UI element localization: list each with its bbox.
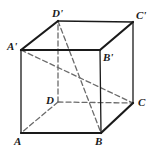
cube-figure: ABCDA'B'C'D'	[0, 0, 161, 155]
space-diagonal-Aprime-C	[21, 50, 133, 103]
vertex-label-b: B	[95, 136, 102, 147]
cube-line-drawing	[0, 0, 161, 155]
vertex-label-dprime: D'	[52, 8, 63, 19]
vertex-label-aprime: A'	[7, 41, 17, 52]
edge-B-Bprime	[100, 50, 101, 133]
visible-edges-group	[21, 21, 133, 133]
edge-Dprime-Cprime	[58, 21, 133, 22]
edge-Bprime-Cprime	[100, 22, 133, 50]
hidden-edge-D-A	[21, 102, 58, 133]
vertex-label-a: A	[14, 136, 21, 147]
space-diagonal-Dprime-B	[58, 21, 101, 133]
edge-B-C	[101, 103, 133, 133]
hidden-edge-D-C	[58, 102, 133, 103]
vertex-label-cprime: C'	[136, 10, 146, 21]
vertex-label-c: C	[138, 97, 145, 108]
vertex-label-bprime: B'	[103, 52, 113, 63]
edge-Aprime-Dprime	[21, 21, 58, 50]
vertex-label-d: D	[46, 95, 54, 106]
